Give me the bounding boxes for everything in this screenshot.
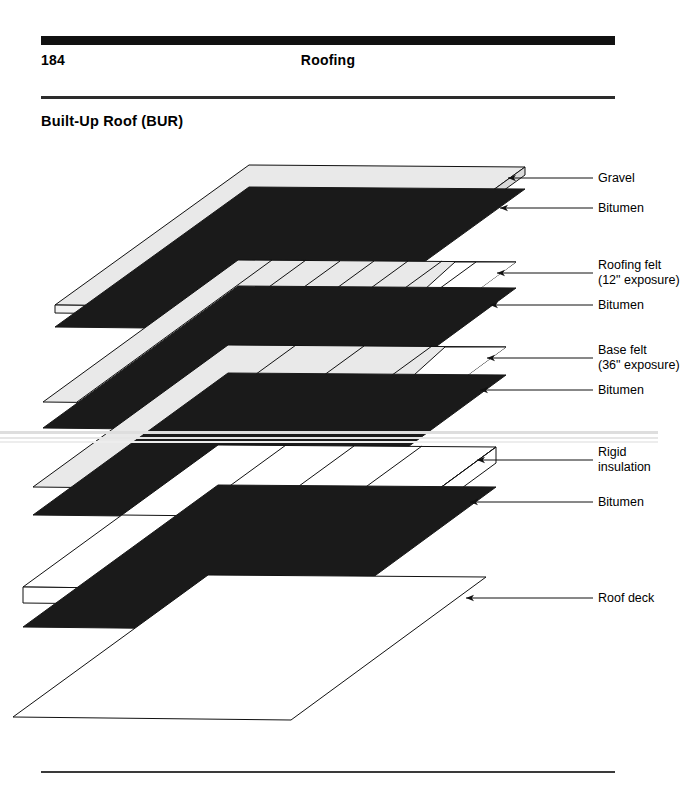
callout-gravel: Gravel xyxy=(598,171,635,186)
callout-base-felt-line2: (36" exposure) xyxy=(598,358,680,372)
callout-base-felt: Base felt(36" exposure) xyxy=(598,343,680,373)
callout-roofing-felt-line1: Roofing felt xyxy=(598,258,661,272)
callout-insulation-line1: Rigid xyxy=(598,445,627,459)
running-head-row: 184 Roofing xyxy=(41,52,615,72)
footer-divider-rule xyxy=(41,771,615,773)
callout-bitumen-4: Bitumen xyxy=(598,495,644,510)
callout-roofing-felt-line2: (12" exposure) xyxy=(598,273,680,287)
callout-roof-deck: Roof deck xyxy=(598,591,654,606)
callout-bitumen-1: Bitumen xyxy=(598,201,644,216)
callout-base-felt-line1: Base felt xyxy=(598,343,647,357)
section-title: Built-Up Roof (BUR) xyxy=(41,113,183,129)
header-divider-rule xyxy=(41,96,615,99)
callout-bitumen-2: Bitumen xyxy=(598,298,644,313)
running-head: Roofing xyxy=(41,52,615,68)
callout-insulation: Rigidinsulation xyxy=(598,445,651,475)
callout-insulation-line2: insulation xyxy=(598,460,651,474)
bur-assembly-diagram: Gravel Bitumen Roofing felt(12" exposure… xyxy=(0,140,658,760)
callout-bitumen-3: Bitumen xyxy=(598,383,644,398)
header-rule-bar xyxy=(41,36,615,45)
callout-roofing-felt: Roofing felt(12" exposure) xyxy=(598,258,680,288)
